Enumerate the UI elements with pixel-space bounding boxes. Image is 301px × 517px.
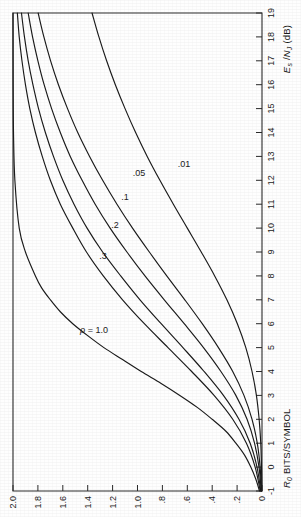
y-axis-tick-label: .8 — [157, 496, 167, 504]
data-series-line — [28, 13, 261, 491]
x-axis-tick-label: 0 — [266, 465, 276, 470]
y-axis-tick-label: 1.8 — [33, 496, 43, 509]
y-axis-tick-label: 1.4 — [83, 496, 93, 509]
chart-plot-area: -10123456789101112131415161718190.2.4.6.… — [0, 0, 301, 517]
x-axis-tick-label: 3 — [266, 393, 276, 398]
x-axis-tick-label: 10 — [266, 223, 276, 233]
x-axis-tick-label: 14 — [266, 127, 276, 137]
x-axis-tick-label: 8 — [266, 273, 276, 278]
x-axis-tick-label: 15 — [266, 104, 276, 114]
x-axis-tick-label: 1 — [266, 441, 276, 446]
data-series-line — [13, 13, 260, 491]
x-axis-tick-label: 12 — [266, 175, 276, 185]
y-axis-tick-label: 1.0 — [133, 496, 143, 509]
x-axis-title: Es /NJ (dB) — [281, 25, 293, 73]
y-axis-title: R0 BITS/SYMBOL — [281, 408, 293, 488]
data-series-line — [21, 13, 260, 491]
x-axis-tick-label: 4 — [266, 369, 276, 374]
data-series-line — [92, 13, 262, 491]
x-axis-tick-label: 13 — [266, 151, 276, 161]
x-axis-tick-label: 11 — [266, 200, 276, 209]
y-axis-tick-label: 1.2 — [108, 496, 118, 509]
x-axis-tick-label: 17 — [266, 56, 276, 66]
x-axis-tick-label: 18 — [266, 32, 276, 42]
rotated-chart-stage: -10123456789101112131415161718190.2.4.6.… — [0, 0, 301, 517]
chart-svg — [0, 0, 301, 517]
y-axis-tick-label: .2 — [232, 496, 242, 504]
axes-frame — [13, 13, 262, 491]
figure-canvas: -10123456789101112131415161718190.2.4.6.… — [0, 0, 301, 517]
x-axis-tick-label: 9 — [266, 249, 276, 254]
y-axis-tick-label: 1.6 — [58, 496, 68, 509]
y-axis-tick-label: .4 — [207, 496, 217, 504]
series-inline-label: .05 — [133, 168, 146, 178]
series-inline-label: ρ = 1.0 — [80, 325, 108, 335]
data-series-line — [17, 13, 260, 491]
series-inline-label: .2 — [111, 220, 119, 230]
x-axis-tick-label: -1 — [266, 487, 276, 495]
x-axis-tick-label: 7 — [266, 297, 276, 302]
x-axis-tick-label: 2 — [266, 417, 276, 422]
x-axis-tick-label: 19 — [266, 8, 276, 18]
x-axis-tick-label: 16 — [266, 80, 276, 90]
y-axis-tick-label: .6 — [182, 496, 192, 504]
series-inline-label: .3 — [100, 251, 108, 261]
series-inline-label: .01 — [178, 159, 191, 169]
y-axis-tick-label: 0 — [257, 496, 267, 501]
data-series-line — [38, 13, 261, 491]
x-axis-tick-label: 6 — [266, 321, 276, 326]
x-axis-tick-label: 5 — [266, 345, 276, 350]
y-axis-tick-label: 2.0 — [8, 496, 18, 509]
series-inline-label: .1 — [121, 192, 129, 202]
